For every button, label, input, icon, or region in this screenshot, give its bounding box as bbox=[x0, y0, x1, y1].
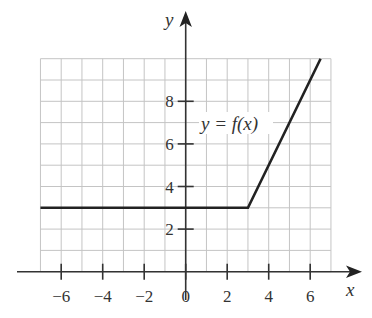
x-axis-label: x bbox=[345, 279, 355, 300]
y-axis-label: y bbox=[163, 9, 174, 30]
function-curve bbox=[40, 59, 320, 208]
y-tick-label: 4 bbox=[165, 178, 174, 197]
x-tick-label: 0 bbox=[181, 287, 190, 306]
x-tick-label: 2 bbox=[223, 287, 232, 306]
y-tick-label: 2 bbox=[165, 220, 174, 239]
x-tick-label: −4 bbox=[94, 287, 113, 306]
x-tick-label: −2 bbox=[135, 287, 153, 306]
y-tick-label: 6 bbox=[165, 135, 174, 154]
ticks: −6−4−202462468 bbox=[52, 92, 314, 305]
chart: −6−4−202462468 y x y = f(x) bbox=[0, 0, 372, 318]
x-tick-label: 4 bbox=[264, 287, 273, 306]
y-tick-label: 8 bbox=[165, 92, 174, 111]
curve-annotation: y = f(x) bbox=[199, 113, 258, 135]
x-tick-label: 6 bbox=[306, 287, 315, 306]
x-tick-label: −6 bbox=[52, 287, 70, 306]
